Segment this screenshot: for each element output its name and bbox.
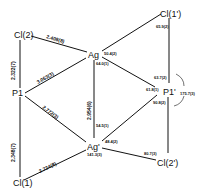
atom-agp: Ag' bbox=[87, 142, 100, 152]
angle-ag-left: 64.0(1) bbox=[96, 61, 109, 66]
angle-agp-right: 48.4(2) bbox=[105, 139, 118, 144]
distance-cl1-agp: 2.724(8) bbox=[38, 160, 58, 174]
crystal-structure-diagram: Cl(2) Ag Cl(1') P1 P1' Cl(1) Ag' Cl(2') … bbox=[0, 0, 207, 189]
bond-ag-cl1p bbox=[102, 14, 161, 51]
angle-agp-lower: 141.3(3) bbox=[87, 152, 103, 157]
distance-ag-agp: 2.954(6) bbox=[86, 101, 92, 120]
angle-ag-top: 50.4(2) bbox=[104, 51, 117, 56]
angle-p1p-lower: 90.8(2) bbox=[153, 100, 166, 105]
atom-cl2: Cl(2) bbox=[14, 30, 34, 40]
angle-arc-lower bbox=[174, 96, 184, 106]
angle-cl1p-top: 65.9(2) bbox=[156, 24, 169, 29]
angle-p1p-arc: 175.7(3) bbox=[180, 91, 196, 96]
atom-cl1p: Cl(1') bbox=[160, 9, 181, 19]
distance-p1-agp: 2.772(3) bbox=[41, 104, 60, 120]
distance-cl2-p1: 2.322(7) bbox=[10, 61, 16, 80]
angle-cl2p-left: 80.7(3) bbox=[144, 151, 157, 156]
angle-p1p-left: 61.8(1) bbox=[146, 87, 159, 92]
distance-p1-cl1: 2.348(7) bbox=[10, 143, 16, 162]
atom-cl2p: Cl(2') bbox=[157, 158, 178, 168]
atom-ag: Ag bbox=[88, 50, 99, 60]
atom-p1p: P1' bbox=[163, 87, 176, 97]
atom-cl1: Cl(1) bbox=[13, 178, 33, 188]
atom-p1: P1 bbox=[12, 88, 23, 98]
bond-ag-p1p bbox=[102, 57, 155, 87]
bond-agp-p1p bbox=[102, 95, 157, 141]
bond-p1-ag bbox=[25, 58, 86, 93]
angle-agp-upper: 54.5(1) bbox=[96, 123, 109, 128]
angle-p1p-upper: 63.7(2) bbox=[154, 75, 167, 80]
angle-arc-upper bbox=[176, 74, 184, 86]
